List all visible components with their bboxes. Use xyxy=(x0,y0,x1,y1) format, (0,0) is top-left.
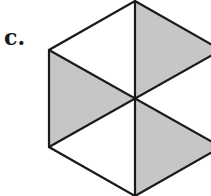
shaded-triangle-upper-right xyxy=(135,1,211,99)
shaded-triangle-lower-right xyxy=(135,99,211,196)
hexagon-diagram xyxy=(0,0,211,196)
shaded-triangle-left xyxy=(49,50,135,147)
